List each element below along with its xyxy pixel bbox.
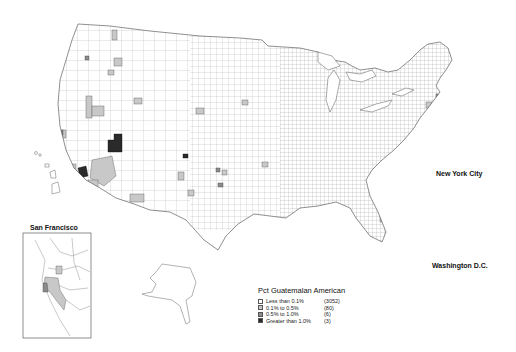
legend-label: 0.1% to 0.5% [266, 305, 324, 311]
legend-swatch [258, 305, 263, 310]
inset-san-francisco [23, 233, 91, 338]
legend-label: 0.5% to 1.0% [266, 311, 324, 317]
alaska [142, 264, 196, 324]
legend-count: (80) [324, 305, 344, 311]
legend-item: 0.5% to 1.0% (6) [258, 311, 345, 318]
legend-item: Less than 0.1% (3052) [258, 298, 345, 305]
legend-count: (3052) [324, 298, 344, 304]
legend-label: Greater than 1.0% [266, 318, 324, 324]
map-legend: Pct Guatemalan American Less than 0.1% (… [258, 286, 345, 324]
legend-title: Pct Guatemalan American [258, 286, 345, 295]
legend-swatch [258, 312, 263, 317]
legend-item: Greater than 1.0% (3) [258, 318, 345, 325]
inset-title-san-francisco: San Francisco [30, 224, 78, 231]
legend-label: Less than 0.1% [266, 298, 324, 304]
legend-count: (6) [324, 311, 344, 317]
inset-title-new-york-city: New York City [436, 170, 482, 177]
legend-swatch [258, 318, 263, 323]
legend-swatch [258, 299, 263, 304]
legend-item: 0.1% to 0.5% (80) [258, 305, 345, 312]
contiguous-us [50, 20, 460, 258]
legend-count: (3) [324, 318, 344, 324]
hawaii [35, 152, 61, 195]
inset-title-washington-dc: Washington D.C. [432, 262, 488, 269]
